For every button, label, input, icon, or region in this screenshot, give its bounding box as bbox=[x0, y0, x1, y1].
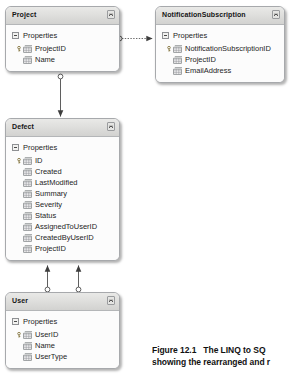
entity-project[interactable]: Project Properties bbox=[5, 6, 120, 72]
minus-expander-icon[interactable] bbox=[12, 144, 19, 151]
entity-notificationsubscription[interactable]: NotificationSubscription Properties bbox=[155, 6, 285, 83]
property-icon bbox=[23, 234, 32, 242]
entity-header[interactable]: Defect bbox=[6, 119, 119, 137]
property-icon bbox=[23, 190, 32, 198]
property-icon bbox=[23, 342, 32, 350]
association-project-defect bbox=[58, 74, 63, 116]
property-icon bbox=[23, 168, 32, 176]
property-label: CreatedByUserID bbox=[35, 233, 94, 242]
property-row[interactable]: ProjectID bbox=[156, 54, 284, 65]
property-icon bbox=[23, 45, 32, 53]
property-label: ProjectID bbox=[35, 244, 66, 253]
property-row[interactable]: UserType bbox=[6, 351, 119, 362]
property-icon bbox=[23, 179, 32, 187]
property-label: UserType bbox=[35, 352, 67, 361]
property-icon bbox=[23, 245, 32, 253]
properties-group-header[interactable]: Properties bbox=[6, 30, 119, 41]
entity-defect[interactable]: Defect Properties bbox=[5, 118, 120, 261]
figure-caption: Figure 12.1The LINQ to SQ showing the re… bbox=[152, 345, 291, 368]
entity-title: Defect bbox=[12, 122, 103, 131]
properties-group-label: Properties bbox=[23, 317, 57, 326]
property-label: ProjectID bbox=[185, 55, 216, 64]
properties-group-label: Properties bbox=[23, 31, 57, 40]
property-label: AssignedToUserID bbox=[35, 222, 97, 231]
caption-text-line-1: The LINQ to SQ bbox=[203, 345, 265, 355]
property-row[interactable]: Created bbox=[6, 166, 119, 177]
properties-group-header[interactable]: Properties bbox=[6, 142, 119, 153]
property-icon bbox=[23, 212, 32, 220]
property-row[interactable]: AssignedToUserID bbox=[6, 221, 119, 232]
property-row[interactable]: NotificationSubscriptionID bbox=[156, 43, 284, 54]
property-label: Name bbox=[35, 55, 55, 64]
property-label: NotificationSubscriptionID bbox=[185, 44, 271, 53]
entity-title: NotificationSubscription bbox=[162, 10, 268, 19]
property-row[interactable]: Status bbox=[6, 210, 119, 221]
property-label: Created bbox=[35, 167, 62, 176]
properties-group-label: Properties bbox=[173, 31, 207, 40]
property-label: ProjectID bbox=[35, 44, 66, 53]
property-icon bbox=[173, 45, 182, 53]
primary-key-icon bbox=[17, 158, 21, 164]
property-icon bbox=[23, 353, 32, 361]
entity-header[interactable]: Project bbox=[6, 7, 119, 25]
property-list: ProjectID Name bbox=[6, 43, 119, 65]
entity-body: Properties NotificationSubscriptionID bbox=[156, 25, 284, 82]
entity-user[interactable]: User Properties bbox=[5, 292, 120, 369]
property-label: LastModified bbox=[35, 178, 78, 187]
property-icon bbox=[23, 201, 32, 209]
property-row[interactable]: Summary bbox=[6, 188, 119, 199]
entity-body: Properties UserID bbox=[6, 311, 119, 368]
property-icon bbox=[173, 67, 182, 75]
collapse-chevron-icon[interactable] bbox=[107, 122, 115, 131]
properties-group-label: Properties bbox=[23, 143, 57, 152]
entity-title: User bbox=[12, 296, 103, 305]
property-list: NotificationSubscriptionID ProjectID bbox=[156, 43, 284, 76]
property-label: Name bbox=[35, 341, 55, 350]
association-user-defect-createdby bbox=[76, 266, 81, 292]
diagram-canvas: Project Properties bbox=[0, 0, 291, 377]
entity-header[interactable]: NotificationSubscription bbox=[156, 7, 284, 25]
entity-title: Project bbox=[12, 10, 103, 19]
primary-key-icon bbox=[17, 332, 21, 338]
property-row[interactable]: EmailAddress bbox=[156, 65, 284, 76]
collapse-chevron-icon[interactable] bbox=[107, 296, 115, 305]
collapse-chevron-icon[interactable] bbox=[107, 10, 115, 19]
caption-figure-number: Figure 12.1 bbox=[152, 345, 196, 355]
property-row[interactable]: ID bbox=[6, 155, 119, 166]
property-list: UserID Name UserType bbox=[6, 329, 119, 362]
property-icon bbox=[23, 56, 32, 64]
property-icon bbox=[23, 223, 32, 231]
property-icon bbox=[173, 56, 182, 64]
properties-group-header[interactable]: Properties bbox=[156, 30, 284, 41]
property-label: ID bbox=[35, 156, 43, 165]
property-label: Severity bbox=[35, 200, 62, 209]
minus-expander-icon[interactable] bbox=[12, 318, 19, 325]
association-project-notificationsubscription bbox=[117, 36, 152, 41]
property-label: Status bbox=[35, 211, 56, 220]
property-label: UserID bbox=[35, 330, 58, 339]
property-row[interactable]: ProjectID bbox=[6, 243, 119, 254]
entity-body: Properties ID bbox=[6, 137, 119, 260]
property-label: Summary bbox=[35, 189, 67, 198]
property-row[interactable]: Name bbox=[6, 340, 119, 351]
property-row[interactable]: Name bbox=[6, 54, 119, 65]
property-icon bbox=[23, 157, 32, 165]
collapse-chevron-icon[interactable] bbox=[272, 10, 280, 19]
caption-line-2: showing the rearranged and r bbox=[152, 357, 291, 369]
entity-body: Properties ProjectID bbox=[6, 25, 119, 71]
minus-expander-icon[interactable] bbox=[162, 32, 169, 39]
property-list: ID Created LastModifie bbox=[6, 155, 119, 254]
caption-line-1: Figure 12.1The LINQ to SQ bbox=[152, 345, 291, 357]
properties-group-header[interactable]: Properties bbox=[6, 316, 119, 327]
property-icon bbox=[23, 331, 32, 339]
property-row[interactable]: LastModified bbox=[6, 177, 119, 188]
entity-header[interactable]: User bbox=[6, 293, 119, 311]
minus-expander-icon[interactable] bbox=[12, 32, 19, 39]
primary-key-icon bbox=[17, 46, 21, 52]
property-row[interactable]: UserID bbox=[6, 329, 119, 340]
property-row[interactable]: Severity bbox=[6, 199, 119, 210]
property-row[interactable]: ProjectID bbox=[6, 43, 119, 54]
association-user-defect-assignedto bbox=[45, 266, 50, 292]
primary-key-icon bbox=[167, 46, 171, 52]
property-row[interactable]: CreatedByUserID bbox=[6, 232, 119, 243]
